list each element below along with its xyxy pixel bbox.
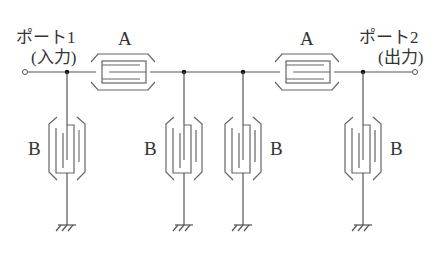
shunt-resonator-b2-icon (166, 72, 202, 231)
resonator-b1-label: B (28, 139, 41, 158)
resonator-b2-label: B (144, 139, 157, 158)
port1-sublabel: (入力) (31, 49, 76, 66)
series-resonator-a1-icon (91, 54, 155, 90)
port1-label: ポート1 (16, 29, 76, 46)
series-resonator-a2-icon (275, 54, 339, 90)
resonator-b4-label: B (390, 139, 403, 158)
shunt-resonator-b3-icon (225, 72, 261, 231)
port2-label: ポート2 (359, 29, 419, 46)
shunt-resonator-b4-icon (345, 72, 381, 231)
shunt-resonator-b1-icon (49, 72, 85, 231)
resonator-b3-label: B (270, 139, 283, 158)
resonator-a1-label: A (118, 29, 132, 48)
port2-sublabel: (出力) (378, 49, 423, 66)
port1-terminal-icon (23, 70, 28, 75)
resonator-a2-label: A (300, 29, 314, 48)
port2-terminal-icon (413, 70, 418, 75)
